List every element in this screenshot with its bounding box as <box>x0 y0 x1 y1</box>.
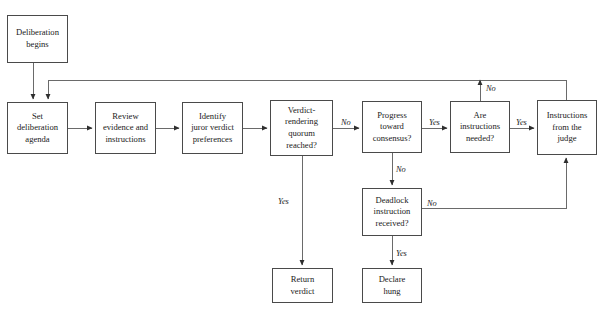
edge-label-progress-yes: Yes <box>429 118 440 127</box>
node-instructions-needed[interactable]: Are instructions needed? <box>450 101 510 153</box>
node-identify-preferences[interactable]: Identify juror verdict preferences <box>182 102 243 154</box>
node-quorum-reached[interactable]: Verdict- rendering quorum reached? <box>270 100 333 156</box>
node-deadlock-received[interactable]: Deadlock instruction received? <box>362 188 422 236</box>
flowchart-canvas: Deliberation begins Set deliberation age… <box>0 0 601 310</box>
edge-label-quorum-no: No <box>341 118 351 127</box>
node-return-verdict[interactable]: Return verdict <box>272 268 333 303</box>
node-review-evidence[interactable]: Review evidence and instructions <box>95 102 156 154</box>
edge-label-quorum-yes: Yes <box>278 197 289 206</box>
wire-deadlock-no-to-judge <box>422 158 566 208</box>
node-deliberation-begins[interactable]: Deliberation begins <box>7 15 68 63</box>
node-progress-consensus[interactable]: Progress toward consensus? <box>362 101 422 153</box>
node-set-agenda[interactable]: Set deliberation agenda <box>7 102 68 154</box>
node-instructions-from-judge[interactable]: Instructions from the judge <box>537 100 597 155</box>
edge-label-deadlock-no: No <box>427 199 437 208</box>
node-declare-hung[interactable]: Declare hung <box>362 268 422 303</box>
edge-label-deadlock-yes: Yes <box>396 249 407 258</box>
edge-label-instructions-yes: Yes <box>516 118 527 127</box>
edge-label-progress-no: No <box>396 165 406 174</box>
edge-label-instructions-no: No <box>486 84 496 93</box>
